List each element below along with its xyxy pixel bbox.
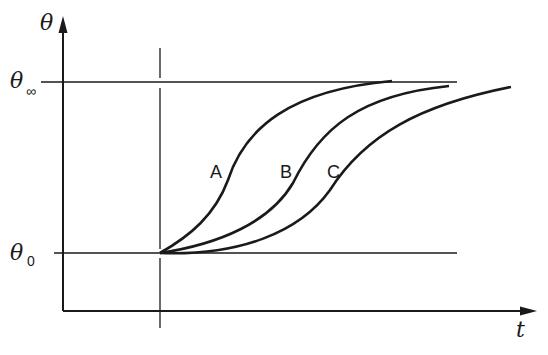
- y-axis-label: θ: [40, 10, 53, 35]
- curve-a-label: A: [210, 162, 222, 182]
- x-axis-label: t: [516, 317, 525, 342]
- theta-inf-subscript: ∞: [26, 83, 36, 99]
- y-axis-arrow-icon: [59, 16, 68, 33]
- curve-a: [160, 81, 392, 253]
- theta-inf-label: θ: [10, 68, 23, 93]
- theta-0-label: θ: [10, 240, 23, 265]
- theta-0-subscript: 0: [27, 253, 35, 269]
- curve-b: [160, 86, 449, 253]
- y-axis: [59, 16, 68, 311]
- x-axis: [63, 307, 537, 316]
- x-axis-arrow-icon: [520, 307, 537, 316]
- curve-c-label: C: [327, 162, 340, 182]
- response-curves-diagram: θ t θ ∞ θ 0 A B C: [0, 0, 548, 355]
- curve-b-label: B: [280, 162, 292, 182]
